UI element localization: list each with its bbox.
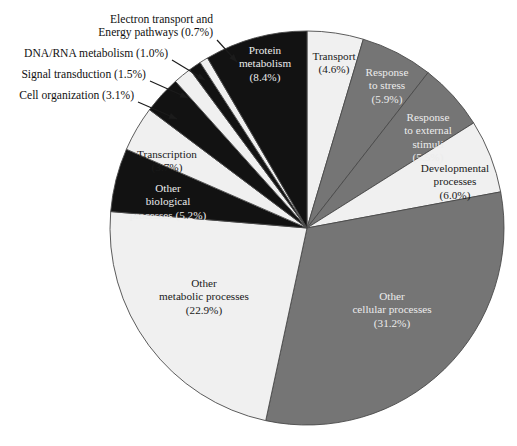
slice-label-line: Signal transduction (1.5%) (21, 68, 146, 81)
slice-label-line: Other (191, 277, 217, 289)
slice-label-line: DNA/RNA metabolism (1.0%) (24, 47, 168, 60)
pie-chart-figure: Transport(4.6%)Responseto stress(5.9%)Re… (0, 0, 517, 446)
slice-label-line: (22.9%) (186, 304, 223, 317)
slice-label-line: (5.9%) (372, 93, 403, 106)
slice-label-line: metabolic processes (159, 290, 249, 302)
slice-label-electron-transport-energy-pathways: Electron transport andEnergy pathways (0… (98, 13, 213, 39)
slice-label-line: Transcription (137, 148, 197, 160)
slice-label-line: (31.2%) (374, 317, 411, 330)
slice-label-line: (8.4%) (250, 71, 281, 84)
slice-label-line: to external (404, 124, 452, 136)
slice-label-line: Protein (249, 44, 282, 56)
slice-label-line: (3.7%) (152, 161, 183, 174)
slice-label-line: Other (155, 182, 181, 194)
slice-label-line: to stress (369, 79, 405, 91)
slice-label-line: Energy pathways (0.7%) (98, 26, 213, 39)
slice-label-cell-organization: Cell organization (3.1%) (19, 89, 134, 102)
slice-label-line: Electron transport and (110, 13, 213, 26)
slice-label-line: Response (407, 111, 450, 123)
slice-label-line: processes (5.2%) (130, 209, 207, 222)
slice-label-line: biological (146, 195, 191, 207)
pie-chart-canvas: Transport(4.6%)Responseto stress(5.9%)Re… (0, 0, 517, 446)
slice-label-line: stimuli (412, 138, 443, 150)
slice-label-line: Cell organization (3.1%) (19, 89, 134, 102)
slice-label-signal-transduction: Signal transduction (1.5%) (21, 68, 146, 81)
slice-label-line: Developmental (421, 162, 489, 174)
slice-label-response-to-stress: Responseto stress(5.9%) (366, 66, 409, 106)
slice-label-line: Transport (312, 50, 356, 62)
slice-label-dna-rna-metabolism: DNA/RNA metabolism (1.0%) (24, 47, 168, 60)
slice-label-line: cellular processes (352, 303, 431, 315)
slice-label-line: metabolism (239, 57, 291, 69)
slice-label-line: Other (379, 290, 405, 302)
slice-label-line: Response (366, 66, 409, 78)
slice-label-line: (4.6%) (319, 63, 350, 76)
slice-label-line: processes (434, 175, 477, 187)
slice-label-line: (6.0%) (440, 189, 471, 202)
